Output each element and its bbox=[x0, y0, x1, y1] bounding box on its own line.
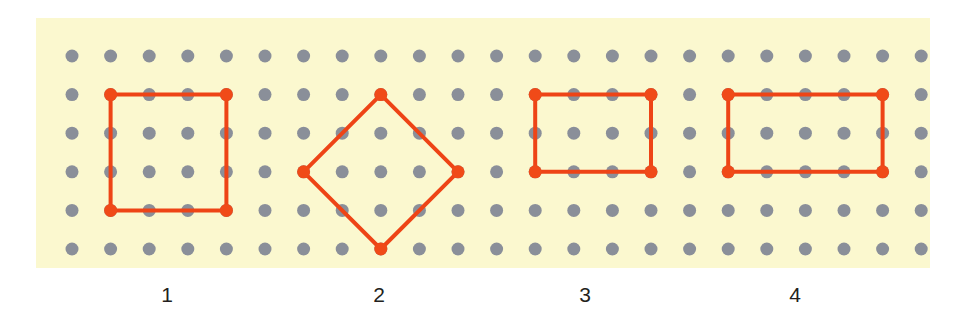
pegboard-panel bbox=[36, 18, 930, 268]
figure-label-1: 1 bbox=[137, 282, 197, 308]
figure-label-2: 2 bbox=[349, 282, 409, 308]
figure-label-3: 3 bbox=[555, 282, 615, 308]
geoboard-figure: 1234 bbox=[0, 0, 971, 321]
figure-label-4: 4 bbox=[765, 282, 825, 308]
